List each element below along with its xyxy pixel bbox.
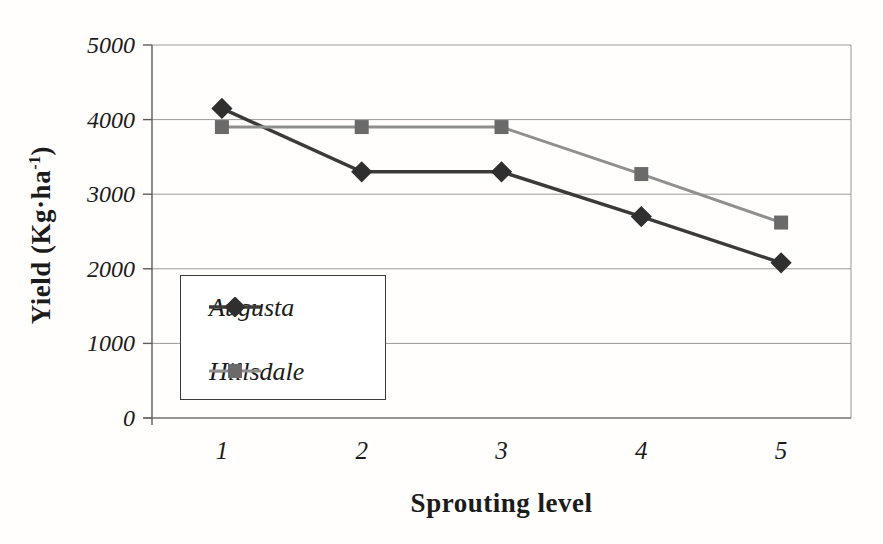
series-point-augusta (491, 161, 512, 182)
y-tick-label: 0 (123, 405, 135, 431)
series-point-hillsdale (215, 120, 229, 134)
legend-item-augusta: Augusta (209, 297, 294, 319)
y-tick-label: 2000 (87, 256, 135, 282)
x-tick-label: 2 (355, 437, 368, 464)
x-axis-title: Sprouting level (152, 488, 851, 519)
y-axis-title: Yield (Kg·ha-1) (26, 95, 60, 375)
y-tick-label: 3000 (86, 181, 135, 207)
series-point-hillsdale (355, 120, 369, 134)
legend-item-hillsdale: Hillsdale (209, 361, 304, 383)
legend-box: AugustaHillsdale (180, 275, 386, 400)
chart-plot-area: 01000200030004000500012345 (0, 0, 883, 544)
legend-marker-hillsdale (228, 364, 242, 378)
series-point-augusta (211, 98, 232, 119)
x-tick-label: 3 (494, 437, 508, 464)
diamond-marker-icon (209, 297, 261, 317)
legend-marker-augusta (224, 297, 245, 317)
y-tick-label: 5000 (87, 32, 135, 58)
x-tick-label: 4 (635, 437, 648, 464)
y-axis-title-text: Yield (Kg·ha-1) (26, 146, 56, 324)
series-point-augusta (631, 206, 652, 227)
square-marker-icon (209, 361, 261, 381)
series-point-hillsdale (774, 216, 788, 230)
y-tick-label: 4000 (87, 107, 135, 133)
x-tick-label: 5 (775, 437, 788, 464)
series-point-hillsdale (634, 167, 648, 181)
x-tick-label: 1 (216, 437, 229, 464)
series-point-augusta (351, 161, 372, 182)
y-tick-label: 1000 (87, 330, 135, 356)
yield-vs-sprouting-chart: 01000200030004000500012345 AugustaHillsd… (0, 0, 883, 544)
series-point-augusta (770, 252, 791, 273)
series-point-hillsdale (495, 120, 509, 134)
